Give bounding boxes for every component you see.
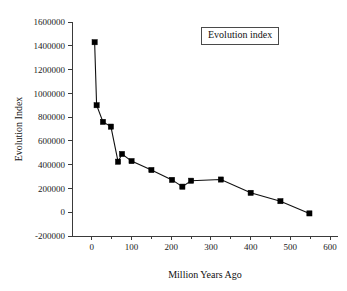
y-axis-title: Evolution Index [13,97,24,162]
data-point-marker [92,40,97,45]
y-axis-ticks: -200000020000040000060000080000010000001… [34,17,73,241]
y-tick-label: 800000 [38,112,66,122]
data-point-marker [169,177,174,182]
x-tick-label: 100 [125,242,139,252]
data-point-marker [218,177,223,182]
y-tick-label: 0 [61,207,66,217]
x-tick-label: 600 [323,242,337,252]
x-tick-label: 300 [204,242,218,252]
y-tick-label: 400000 [38,160,66,170]
data-point-marker [180,184,185,189]
data-point-marker [129,159,134,164]
y-tick-label: 1000000 [34,89,66,99]
x-tick-label: 400 [244,242,258,252]
y-tick-label: 1600000 [34,17,66,27]
y-tick-label: 1400000 [34,41,66,51]
x-tick-label: 0 [90,242,95,252]
series-line-evolution-index [95,42,310,213]
y-tick-label: 200000 [38,184,66,194]
data-point-marker [149,167,154,172]
data-point-marker [307,211,312,216]
x-axis-title: Million Years Ago [168,269,242,280]
legend-label: Evolution index [208,29,272,40]
series-markers-evolution-index [92,40,312,216]
legend-evolution-index: Evolution index [201,27,279,45]
y-tick-label: 600000 [38,136,66,146]
x-tick-label: 200 [165,242,179,252]
data-point-marker [189,178,194,183]
data-point-marker [108,124,113,129]
data-point-marker [278,199,283,204]
y-tick-label: -200000 [35,231,65,241]
chart-figure: -200000020000040000060000080000010000001… [0,0,347,291]
chart-canvas: -200000020000040000060000080000010000001… [0,0,347,291]
data-point-marker [119,151,124,156]
data-point-marker [94,103,99,108]
x-axis-ticks: 0100200300400500600 [90,236,338,252]
data-point-marker [100,119,105,124]
data-point-marker [115,159,120,164]
data-point-marker [248,190,253,195]
x-tick-label: 500 [284,242,298,252]
y-tick-label: 1200000 [34,65,66,75]
